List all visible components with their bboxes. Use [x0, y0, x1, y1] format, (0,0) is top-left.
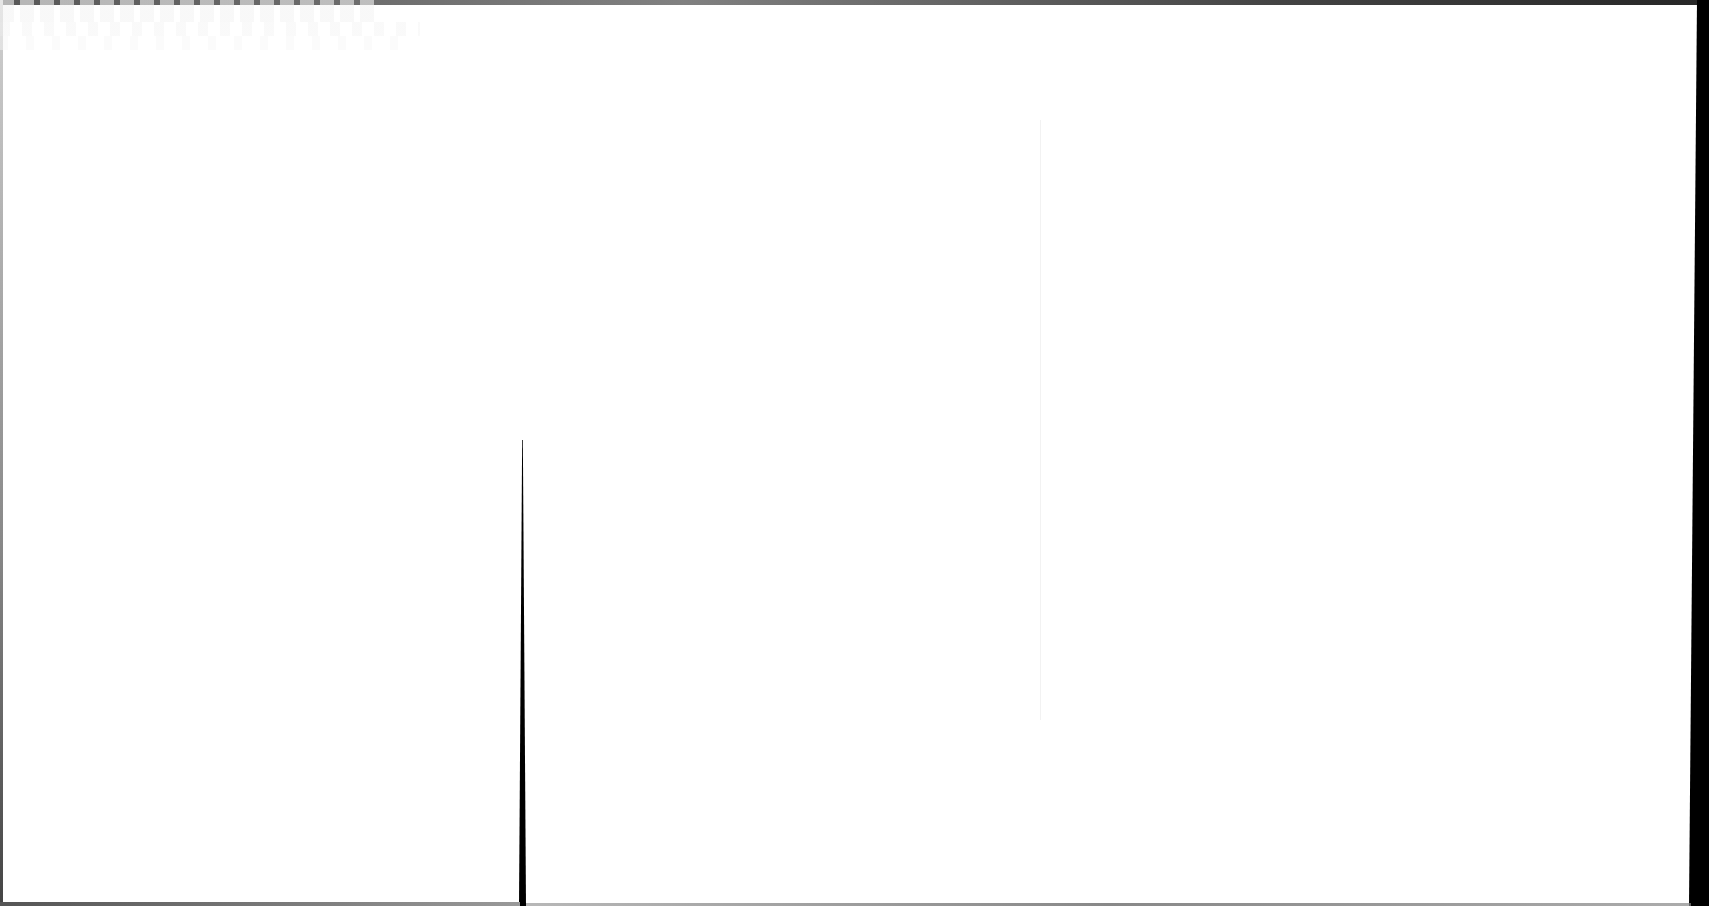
page-gutter-line [519, 440, 526, 906]
faint-show-through-text-center [0, 36, 400, 50]
scan-left-edge [0, 0, 3, 906]
faint-show-through-heading [0, 0, 380, 22]
faint-show-through-text-left [0, 22, 420, 36]
faint-fold-line [1040, 120, 1041, 720]
scanned-page [0, 0, 1709, 906]
scan-right-edge [1689, 0, 1709, 906]
scan-bottom-edge-left [0, 902, 520, 906]
